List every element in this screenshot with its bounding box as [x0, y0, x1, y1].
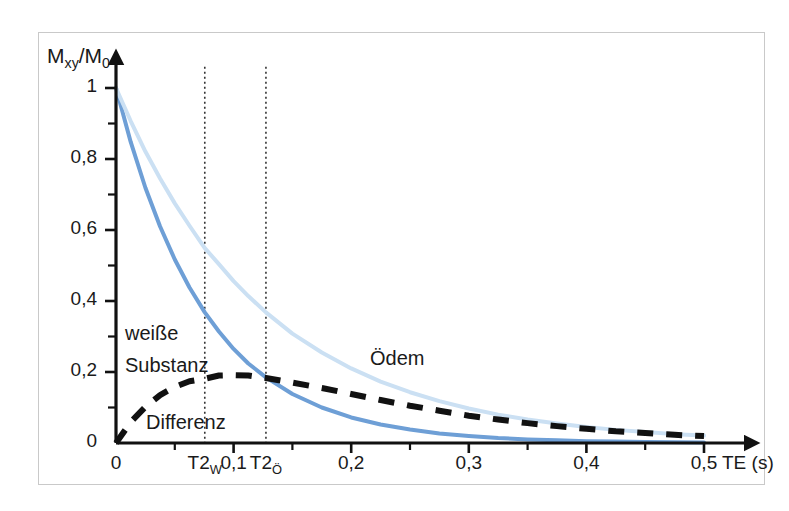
y-tick-label-1: 1	[86, 75, 97, 97]
x-tick-label-0-4: 0,4	[573, 452, 599, 474]
x-axis-unit-label: TE (s)	[722, 452, 774, 474]
marker-lines-group	[205, 67, 266, 443]
chart-plot-area	[0, 0, 789, 511]
marker-label-T2_W: T2W	[188, 452, 222, 477]
y-axis-title: Mxy/M0	[47, 44, 110, 71]
y-axis-title-slash: /M	[79, 44, 102, 67]
y-tick-label-0-4: 0,4	[71, 288, 97, 310]
series-curves-group	[116, 88, 704, 443]
y-axis-title-main: M	[47, 44, 65, 67]
x-tick-label-0-3: 0,3	[456, 452, 482, 474]
y-tick-label-0: 0	[86, 430, 97, 452]
axes-group	[105, 62, 747, 453]
y-axis-title-sub-zero: 0	[102, 55, 110, 71]
curve-weisse-substanz	[116, 88, 704, 442]
y-tick-label-0-8: 0,8	[71, 146, 97, 168]
annotation-oedem: Ödem	[370, 347, 424, 370]
x-tick-label-0-2: 0,2	[338, 452, 364, 474]
y-axis-title-sub-xy: xy	[65, 55, 79, 71]
y-tick-label-0-6: 0,6	[71, 217, 97, 239]
x-tick-label-0-5: 0,5	[691, 452, 717, 474]
x-tick-label-0: 0	[111, 452, 122, 474]
y-tick-label-0-2: 0,2	[71, 359, 97, 381]
x-tick-label-0-1: 0,1	[220, 452, 246, 474]
marker-label-T2_O: T2Ö	[250, 452, 282, 477]
annotation-weisse-substanz: weißeSubstanz	[125, 317, 208, 381]
figure-container: Mxy/M0 00,10,20,30,40,5TE (s)00,20,40,60…	[0, 0, 789, 511]
annotation-differenz: Differenz	[146, 411, 226, 434]
